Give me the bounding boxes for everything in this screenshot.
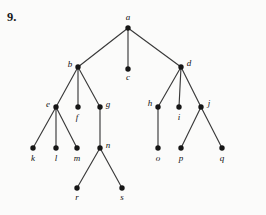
tree-edge-d-h [158,67,181,107]
tree-edges-group [33,28,222,188]
tree-node-label-c: c [126,72,130,82]
tree-node-k [30,145,35,150]
tree-edge-j-q [201,107,222,148]
tree-edge-b-g [78,67,100,107]
tree-edge-e-m [56,107,77,148]
tree-node-label-n: n [106,140,111,150]
tree-node-h [155,104,160,109]
tree-edge-d-i [179,67,181,107]
tree-edge-n-r [77,148,100,188]
tree-node-label-l: l [55,153,58,163]
tree-node-s [119,185,124,190]
tree-node-d [178,64,183,69]
tree-node-j [198,104,203,109]
tree-node-label-s: s [120,192,124,202]
tree-node-label-p: p [178,153,184,163]
tree-edge-a-b [78,28,128,67]
rooted-tree-diagram: abcdefghijklmnopqrs [0,0,266,215]
tree-node-label-i: i [178,112,181,122]
tree-node-label-d: d [187,58,192,68]
tree-node-g [97,104,102,109]
tree-edge-b-e [56,67,78,107]
tree-node-r [74,185,79,190]
tree-node-label-o: o [156,153,161,163]
tree-node-label-b: b [68,59,73,69]
tree-node-label-j: j [207,98,211,108]
tree-node-label-g: g [106,99,111,109]
tree-edge-n-s [100,148,122,188]
tree-node-label-r: r [75,192,79,202]
tree-node-label-h: h [148,98,153,108]
tree-node-i [176,104,181,109]
diagram-page: 9. abcdefghijklmnopqrs [0,0,266,215]
tree-node-l [53,145,58,150]
tree-node-q [219,145,224,150]
tree-node-o [155,145,160,150]
tree-node-label-f: f [76,112,80,122]
tree-node-label-q: q [220,153,225,163]
tree-edge-j-p [181,107,201,148]
tree-node-n [97,145,102,150]
tree-node-label-k: k [31,153,36,163]
tree-node-p [178,145,183,150]
tree-node-a [125,25,130,30]
tree-node-e [53,104,58,109]
tree-edge-e-k [33,107,56,148]
tree-node-label-e: e [46,99,50,109]
tree-node-b [75,64,80,69]
tree-node-label-m: m [74,153,81,163]
tree-node-m [74,145,79,150]
tree-node-f [75,104,80,109]
tree-node-c [125,66,130,71]
tree-node-label-a: a [126,12,131,22]
tree-edge-d-j [181,67,201,107]
tree-edge-a-d [128,28,181,67]
